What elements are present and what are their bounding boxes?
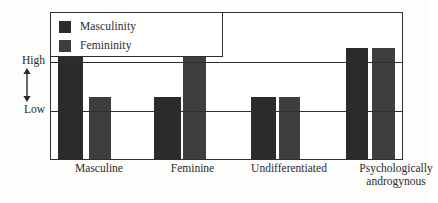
x-tick-line1: Undifferentiated (251, 162, 327, 174)
x-tick-label-1: Masculine (44, 162, 154, 175)
legend-label-masculinity: Masculinity (80, 21, 136, 33)
legend-item-femininity: Femininity (59, 37, 222, 54)
y-axis: High Low (0, 0, 50, 203)
legend-item-masculinity: Masculinity (59, 18, 222, 35)
x-tick-line1: Feminine (171, 162, 214, 174)
bar-masculine-femininity (89, 97, 111, 159)
bar-undifferentiated-femininity (279, 97, 300, 159)
x-tick-label-4: Psychologicallyandrogynous (336, 162, 438, 187)
bar-masculine-masculinity (58, 48, 83, 159)
gridline-high (51, 62, 402, 63)
y-tick-label-high: High (22, 55, 45, 67)
y-tick-label-low: Low (24, 104, 45, 116)
plot-area: Masculinity Femininity (50, 12, 403, 160)
bar-undifferentiated-masculinity (251, 97, 276, 159)
x-tick-line1: Psychologically (359, 162, 432, 174)
bar-androgynous-masculinity (346, 48, 368, 159)
x-axis: MasculineFeminineUndifferentiatedPsychol… (50, 162, 403, 202)
legend: Masculinity Femininity (51, 13, 223, 57)
legend-label-femininity: Femininity (80, 40, 131, 52)
bar-feminine-masculinity (154, 97, 181, 159)
legend-swatch-masculinity (59, 21, 71, 33)
double-headed-vertical-arrow-icon (22, 68, 32, 102)
x-tick-line2: androgynous (336, 175, 438, 188)
gridline-low (51, 111, 402, 112)
x-tick-label-3: Undifferentiated (224, 162, 354, 175)
x-tick-line1: Masculine (75, 162, 123, 174)
bar-androgynous-femininity (372, 48, 395, 159)
legend-swatch-femininity (59, 40, 71, 52)
bar-feminine-femininity (183, 48, 206, 159)
